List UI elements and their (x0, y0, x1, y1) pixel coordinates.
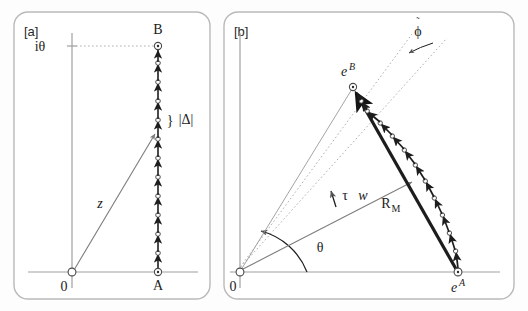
i-theta-label: iθ (35, 39, 46, 54)
point-b-label: B (153, 22, 162, 37)
figure-root: [a] iθ (0, 0, 528, 311)
point-ea-label: e (451, 280, 457, 295)
origin-a-label: 0 (61, 279, 68, 294)
vector-rm-subscript: M (392, 203, 401, 214)
point-ea-superscript: A (458, 277, 466, 288)
theta-label: θ (317, 240, 324, 255)
point-a-label: A (153, 278, 164, 293)
panel-b: [b] ϕ ˜ θ w τ R M (224, 12, 514, 299)
origin-b (236, 268, 244, 276)
panel-a: [a] iθ (14, 12, 210, 299)
vector-w-label: w (358, 188, 368, 203)
delta-brace: } (167, 113, 174, 128)
vector-z-label: z (96, 196, 103, 211)
point-b (154, 42, 161, 49)
origin-b-label: 0 (230, 279, 237, 294)
vector-rm-label: R (381, 196, 391, 211)
figure-svg: [a] iθ (0, 0, 528, 311)
point-a (154, 268, 161, 275)
point-eb-superscript: B (349, 61, 355, 72)
panel-b-tag: [b] (234, 24, 248, 39)
panel-a-frame (14, 12, 210, 299)
point-eb-label: e (341, 64, 347, 79)
point-eb (349, 83, 356, 90)
panel-a-tag: [a] (24, 24, 38, 39)
point-ea (454, 268, 462, 276)
delta-magnitude-label: |Δ| (179, 112, 194, 127)
vector-tau-label: τ (342, 188, 348, 203)
